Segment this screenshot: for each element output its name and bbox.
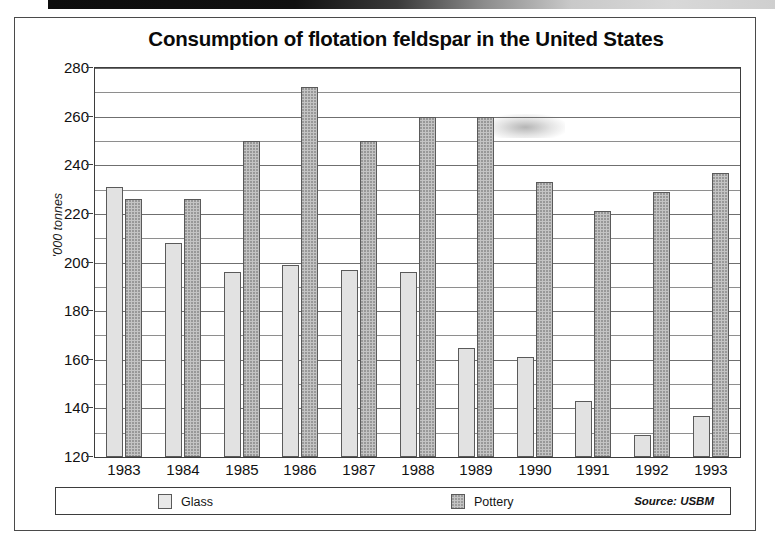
x-axis-tick-label: 1991 bbox=[563, 461, 623, 478]
scan-artifact-fade bbox=[0, 9, 775, 15]
x-axis-tick-label: 1988 bbox=[388, 461, 448, 478]
x-axis-tick-label: 1984 bbox=[153, 461, 213, 478]
bar-glass-1987 bbox=[341, 270, 358, 457]
page-title: Consumption of flotation feldspar in the… bbox=[15, 27, 757, 51]
bar-glass-1988 bbox=[400, 272, 417, 457]
gridline bbox=[95, 92, 740, 93]
bar-pottery-1990 bbox=[536, 182, 553, 457]
bar-glass-1983 bbox=[106, 187, 123, 457]
x-axis-tick-label: 1992 bbox=[622, 461, 682, 478]
y-axis-tick-mark bbox=[86, 164, 93, 165]
source-note: Source: USBM bbox=[634, 495, 714, 507]
bar-glass-1991 bbox=[575, 401, 592, 457]
bar-pottery-1987 bbox=[360, 141, 377, 457]
x-axis-tick-label: 1987 bbox=[329, 461, 389, 478]
x-axis-tick-label: 1989 bbox=[446, 461, 506, 478]
legend-swatch-glass-icon bbox=[158, 494, 172, 509]
bar-glass-1989 bbox=[458, 348, 475, 457]
x-axis-tick-label: 1985 bbox=[212, 461, 272, 478]
y-axis-tick-mark bbox=[86, 67, 93, 68]
bar-pottery-1992 bbox=[653, 192, 670, 457]
chart-figure: Consumption of flotation feldspar in the… bbox=[14, 17, 756, 531]
legend-swatch-pottery-icon bbox=[451, 494, 465, 509]
y-axis-tick-mark bbox=[86, 310, 93, 311]
bar-pottery-1986 bbox=[301, 87, 318, 457]
y-axis-tick-mark bbox=[86, 262, 93, 263]
legend-item-pottery: Pottery bbox=[451, 493, 514, 510]
bar-pottery-1993 bbox=[712, 173, 729, 457]
y-axis-tick-mark bbox=[86, 359, 93, 360]
legend-item-glass: Glass bbox=[158, 493, 213, 510]
y-axis-tick-marks bbox=[29, 67, 95, 458]
bar-pottery-1985 bbox=[243, 141, 260, 457]
legend-label-glass: Glass bbox=[181, 495, 213, 509]
gridline bbox=[95, 117, 740, 118]
x-axis-tick-label: 1993 bbox=[681, 461, 741, 478]
scan-artifact-strip bbox=[48, 0, 775, 9]
x-axis-tick-labels: 1983198419851986198719881989199019911992… bbox=[94, 461, 741, 483]
y-axis-tick-mark bbox=[86, 456, 93, 457]
bar-glass-1992 bbox=[634, 435, 651, 457]
bar-pottery-1989 bbox=[477, 117, 494, 457]
gridline bbox=[95, 457, 740, 458]
bar-pottery-1991 bbox=[594, 211, 611, 457]
gridline bbox=[95, 68, 740, 69]
chart-legend: Glass Pottery Source: USBM bbox=[55, 487, 731, 515]
gridline bbox=[95, 190, 740, 191]
bar-glass-1985 bbox=[224, 272, 241, 457]
gridline bbox=[95, 165, 740, 166]
y-axis-tick-mark bbox=[86, 116, 93, 117]
legend-label-pottery: Pottery bbox=[474, 495, 514, 509]
gridline bbox=[95, 141, 740, 142]
x-axis-tick-label: 1983 bbox=[94, 461, 154, 478]
bar-pottery-1988 bbox=[419, 117, 436, 457]
bar-glass-1986 bbox=[282, 265, 299, 457]
y-axis-tick-mark bbox=[86, 407, 93, 408]
bar-glass-1990 bbox=[517, 357, 534, 457]
x-axis-tick-label: 1986 bbox=[270, 461, 330, 478]
bar-glass-1993 bbox=[693, 416, 710, 457]
y-axis-tick-mark bbox=[86, 213, 93, 214]
plot-area bbox=[94, 67, 741, 458]
bar-pottery-1984 bbox=[184, 199, 201, 457]
bar-glass-1984 bbox=[165, 243, 182, 457]
bar-pottery-1983 bbox=[125, 199, 142, 457]
x-axis-tick-label: 1990 bbox=[505, 461, 565, 478]
